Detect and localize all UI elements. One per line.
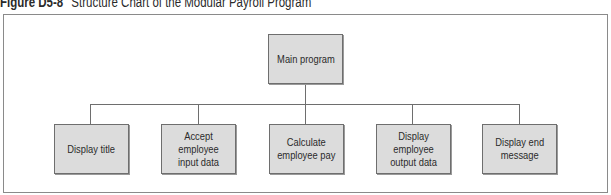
module-main-program: Main program bbox=[268, 34, 343, 84]
child-connector-4 bbox=[412, 104, 413, 124]
module-label: Main program bbox=[277, 53, 335, 66]
figure-label: Figure D5-8 bbox=[0, 0, 63, 10]
module-accept-input: Accept employee input data bbox=[161, 124, 236, 174]
module-label: Display title bbox=[68, 143, 116, 156]
module-display-output: Display employee output data bbox=[376, 124, 451, 174]
child-connector-1 bbox=[90, 104, 91, 124]
figure-title: Figure D5-8Structure Chart of the Modula… bbox=[0, 0, 311, 10]
module-label: Display end message bbox=[495, 136, 544, 162]
child-connector-2 bbox=[198, 104, 199, 124]
module-display-end: Display end message bbox=[482, 124, 557, 174]
module-label: Accept employee input data bbox=[167, 130, 229, 169]
module-label: Display employee output data bbox=[390, 130, 437, 169]
figure-caption: Structure Chart of the Modular Payroll P… bbox=[71, 0, 311, 10]
root-connector bbox=[305, 84, 306, 104]
module-display-title: Display title bbox=[54, 124, 129, 174]
module-calculate-pay: Calculate employee pay bbox=[269, 124, 344, 174]
child-connector-3 bbox=[305, 104, 306, 124]
child-connector-5 bbox=[519, 104, 520, 124]
module-label: Calculate employee pay bbox=[277, 136, 335, 162]
